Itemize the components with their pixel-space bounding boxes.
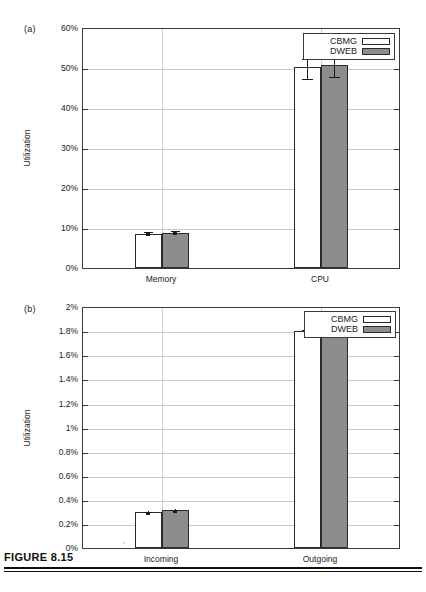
panel-b-legend-swatch-cbmg bbox=[363, 316, 391, 323]
panel-b-tag: (b) bbox=[24, 304, 36, 314]
panel-b-tickmark-right-0p2 bbox=[394, 525, 399, 526]
panel-b-tickmark-right-0p6 bbox=[394, 477, 399, 478]
panel-a-gridline-50 bbox=[83, 69, 399, 70]
panel-a-legend: CBMG DWEB bbox=[303, 33, 395, 60]
panel-a-ytick-0: 0% bbox=[48, 264, 78, 273]
panel-a-gridline-30 bbox=[83, 149, 399, 150]
panel-a-tickmark-right-20 bbox=[394, 189, 399, 190]
chart-panel-a: (a) Utilization 60% 50% 40% 30% 20% 10% … bbox=[0, 0, 426, 290]
panel-b-tickmark-right-1p6 bbox=[394, 356, 399, 357]
panel-b-ytick-0p6: 0.6% bbox=[44, 472, 78, 481]
panel-b-errormarker-incoming-dweb bbox=[173, 511, 177, 513]
panel-a-tickmark-10 bbox=[83, 229, 88, 230]
panel-b-legend-swatch-dweb bbox=[363, 326, 391, 333]
panel-a-errormarker-memory-dweb bbox=[173, 232, 177, 235]
panel-b-legend-row-dweb: DWEB bbox=[310, 324, 391, 334]
panel-b-bar-outgoing-dweb bbox=[321, 326, 348, 548]
panel-b-tickmark-1 bbox=[83, 429, 88, 430]
panel-a-y-axis-title: Utilization bbox=[22, 118, 32, 178]
panel-b-ytick-0p2: 0.2% bbox=[44, 520, 78, 529]
figure-8-15: (a) Utilization 60% 50% 40% 30% 20% 10% … bbox=[0, 0, 426, 592]
panel-a-tickmark-20 bbox=[83, 189, 88, 190]
panel-a-legend-label-dweb: DWEB bbox=[330, 47, 357, 56]
panel-a-gridline-20 bbox=[83, 189, 399, 190]
panel-a-bar-memory-cbmg bbox=[135, 234, 162, 268]
caption-divider-thick bbox=[4, 567, 422, 569]
panel-a-ytick-60: 60% bbox=[48, 24, 78, 33]
chart-panel-b: (b) Utilization 2% 1.8% 1.6% 1.4% 1.2% 1… bbox=[0, 280, 426, 545]
panel-b-legend-label-cbmg: CBMG bbox=[331, 315, 358, 324]
figure-caption-block: FIGURE 8.15 bbox=[0, 551, 426, 572]
panel-b-ytick-0p4: 0.4% bbox=[44, 496, 78, 505]
panel-a-ytick-40: 40% bbox=[48, 104, 78, 113]
panel-b-tickmark-0p8 bbox=[83, 453, 88, 454]
panel-a-gridline-10 bbox=[83, 229, 399, 230]
panel-b-gridline-1 bbox=[83, 429, 399, 430]
panel-b-tickmark-0p4 bbox=[83, 501, 88, 502]
panel-a-ytick-20: 20% bbox=[48, 184, 78, 193]
panel-b-legend-label-dweb: DWEB bbox=[331, 325, 358, 334]
panel-a-bar-cpu-dweb bbox=[321, 65, 348, 268]
panel-a-legend-row-cbmg: CBMG bbox=[309, 36, 390, 46]
panel-b-gridline-0p4 bbox=[83, 501, 399, 502]
panel-b-ytick-0p8: 0.8% bbox=[44, 448, 78, 457]
panel-a-ytick-30: 30% bbox=[48, 144, 78, 153]
panel-a-tickmark-right-30 bbox=[394, 149, 399, 150]
panel-a-ytick-10: 10% bbox=[48, 224, 78, 233]
panel-b-tickmark-1p8 bbox=[83, 332, 88, 333]
panel-a-tickmark-30 bbox=[83, 149, 88, 150]
panel-a-legend-swatch-cbmg bbox=[362, 38, 390, 45]
panel-a-plot-area: CBMG DWEB bbox=[82, 28, 400, 269]
panel-b-gridline-1p6 bbox=[83, 356, 399, 357]
panel-b-tickmark-0p6 bbox=[83, 477, 88, 478]
panel-b-errormarker-incoming-cbmg bbox=[146, 513, 150, 515]
panel-a-tickmark-right-10 bbox=[394, 229, 399, 230]
panel-b-bar-outgoing-cbmg bbox=[294, 331, 321, 548]
caption-divider-thin bbox=[4, 571, 422, 572]
panel-b-tickmark-1p4 bbox=[83, 380, 88, 381]
panel-a-errorcap-cpu-cbmg-bottom bbox=[302, 79, 313, 80]
panel-a-ytick-50: 50% bbox=[48, 64, 78, 73]
panel-b-gridline-1p4 bbox=[83, 380, 399, 381]
panel-b-ytick-1p6: 1.6% bbox=[44, 351, 78, 360]
panel-a-errorbar-cpu-cbmg bbox=[307, 59, 308, 79]
panel-b-artifact-speck bbox=[123, 542, 125, 544]
panel-b-gridline-0p8 bbox=[83, 453, 399, 454]
panel-b-bar-incoming-dweb bbox=[162, 510, 189, 548]
panel-a-legend-row-dweb: DWEB bbox=[309, 46, 390, 56]
panel-b-tickmark-1p6 bbox=[83, 356, 88, 357]
panel-a-bar-cpu-cbmg bbox=[294, 67, 321, 268]
panel-b-gridline-1p2 bbox=[83, 405, 399, 406]
panel-b-bar-incoming-cbmg bbox=[135, 512, 162, 548]
panel-a-tickmark-50 bbox=[83, 69, 88, 70]
panel-b-ytick-2: 2% bbox=[44, 303, 78, 312]
panel-b-ytick-1: 1% bbox=[44, 424, 78, 433]
panel-a-errormarker-memory-cbmg bbox=[146, 233, 150, 236]
panel-a-tag: (a) bbox=[24, 24, 36, 34]
panel-a-tickmark-right-50 bbox=[394, 69, 399, 70]
panel-a-gridline-40 bbox=[83, 109, 399, 110]
panel-b-ytick-1p2: 1.2% bbox=[44, 400, 78, 409]
panel-b-tickmark-1p2 bbox=[83, 405, 88, 406]
panel-b-gridline-0p2 bbox=[83, 525, 399, 526]
panel-a-tickmark-right-40 bbox=[394, 109, 399, 110]
panel-b-plot-area: CBMG DWEB bbox=[82, 307, 400, 549]
panel-b-tickmark-right-0p4 bbox=[394, 501, 399, 502]
panel-b-y-axis-title: Utilization bbox=[22, 398, 32, 458]
panel-b-ytick-1p8: 1.8% bbox=[44, 327, 78, 336]
panel-a-legend-label-cbmg: CBMG bbox=[330, 37, 357, 46]
panel-b-tickmark-0p2 bbox=[83, 525, 88, 526]
panel-b-legend: CBMG DWEB bbox=[304, 311, 396, 338]
panel-a-tickmark-40 bbox=[83, 109, 88, 110]
panel-b-legend-row-cbmg: CBMG bbox=[310, 314, 391, 324]
panel-a-errorcap-cpu-dweb-bottom bbox=[329, 77, 340, 78]
panel-b-gridline-0p6 bbox=[83, 477, 399, 478]
panel-b-tickmark-right-1p2 bbox=[394, 405, 399, 406]
panel-a-bar-memory-dweb bbox=[162, 233, 189, 268]
panel-b-tickmark-right-1 bbox=[394, 429, 399, 430]
panel-b-tickmark-right-1p4 bbox=[394, 380, 399, 381]
panel-a-legend-swatch-dweb bbox=[362, 48, 390, 55]
figure-caption-title: FIGURE 8.15 bbox=[0, 551, 426, 563]
panel-b-tickmark-right-0p8 bbox=[394, 453, 399, 454]
panel-b-ytick-1p4: 1.4% bbox=[44, 375, 78, 384]
